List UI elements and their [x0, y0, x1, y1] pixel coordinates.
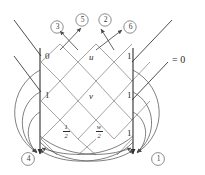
- node-label-w-over-two: w 2: [93, 124, 105, 139]
- bottom-crossing-curves: [40, 136, 133, 161]
- equation-label: = 0: [172, 55, 185, 65]
- node-label-1-mid-left: 1: [45, 91, 50, 100]
- circled-node-3: 3: [51, 21, 64, 34]
- top-arrows: [60, 28, 122, 50]
- node-label-1-bottom-right: 1: [127, 129, 132, 138]
- circled-node-5: 5: [76, 14, 89, 27]
- fraction-numerator: 1: [60, 124, 72, 131]
- node-label-one-half: 1 2: [60, 124, 72, 139]
- node-label-1-mid-right: 1: [127, 91, 132, 100]
- node-label-v: v: [89, 92, 93, 101]
- node-label-1-top-right: 1: [127, 52, 132, 61]
- node-label-u: u: [89, 53, 94, 62]
- node-label-0-top-left: 0: [45, 52, 50, 61]
- figure-canvas: 0 u 1 1 v 1 1 2 w 2 1 3 5 2 6 4 1 = 0: [0, 0, 205, 175]
- fraction-numerator: w: [93, 124, 105, 131]
- fraction-denominator: 2: [93, 132, 105, 139]
- fraction-denominator: 2: [60, 132, 72, 139]
- vertical-rails: [40, 48, 133, 154]
- circled-node-4: 4: [22, 153, 35, 166]
- circled-node-1: 1: [152, 153, 165, 166]
- outer-loops-right: [133, 70, 159, 153]
- circled-node-6: 6: [124, 21, 137, 34]
- outer-loops-left: [15, 70, 40, 153]
- circled-node-2: 2: [99, 14, 112, 27]
